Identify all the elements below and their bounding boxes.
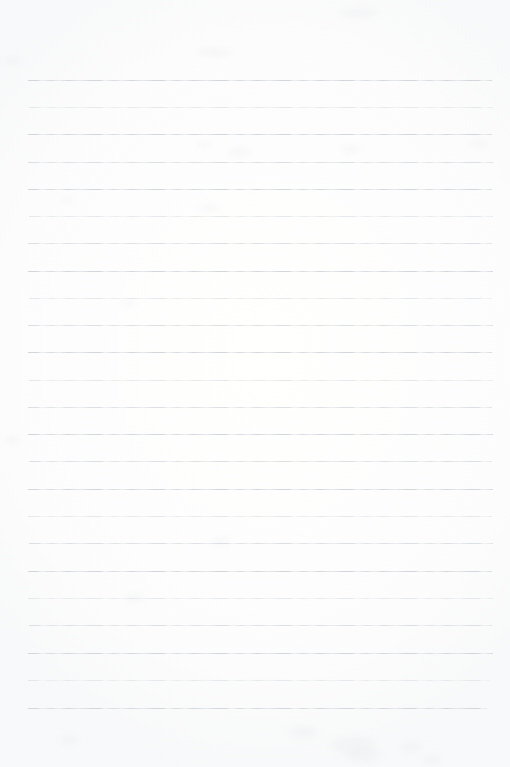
rule-line xyxy=(28,352,492,353)
rule-line xyxy=(28,162,493,163)
rule-line xyxy=(29,107,493,108)
rule-line xyxy=(29,543,493,544)
rule-line xyxy=(28,680,490,681)
rule-line xyxy=(29,625,492,626)
rule-line xyxy=(28,489,493,490)
rule-line xyxy=(29,216,493,217)
rule-line xyxy=(28,653,493,654)
rule-line xyxy=(28,571,492,572)
rule-line xyxy=(28,325,493,326)
rule-line xyxy=(28,189,492,190)
rule-line xyxy=(28,80,492,81)
rule-line xyxy=(28,708,487,709)
rule-line xyxy=(28,434,493,435)
rule-line xyxy=(28,407,492,408)
rule-line xyxy=(28,516,492,517)
rule-line xyxy=(28,271,493,272)
notebook-page xyxy=(0,0,510,767)
rule-line xyxy=(28,134,492,135)
rule-line xyxy=(29,461,492,462)
rule-line xyxy=(29,380,493,381)
ruled-lines-layer xyxy=(0,0,510,767)
rule-line xyxy=(28,598,493,599)
rule-line xyxy=(29,298,492,299)
rule-line xyxy=(28,243,492,244)
